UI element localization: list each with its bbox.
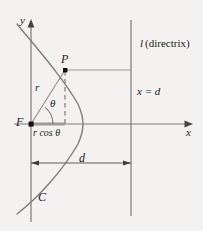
x-axis-label: x (186, 127, 191, 138)
theta-label: θ (50, 98, 55, 109)
directrix-equation-label: x = d (137, 86, 160, 97)
curve-c-label: C (38, 191, 46, 203)
figure-canvas (0, 0, 203, 231)
r-cos-theta-label: r cos θ (33, 128, 60, 138)
focus-point-dot (29, 122, 34, 127)
theta-arc (45, 108, 53, 125)
point-p-label: P (61, 53, 68, 65)
conic-focus-directrix-figure: y x F P C r θ r cos θ d l(directrix) x =… (0, 0, 203, 231)
directrix-name-italic: l (140, 37, 143, 49)
distance-d-right-arrowhead (123, 160, 131, 165)
directrix-name-paren: (directrix) (145, 37, 190, 49)
focus-label: F (16, 116, 23, 128)
focal-radius-segment (31, 70, 65, 124)
radius-r-label: r (35, 82, 39, 93)
p-point-dot (63, 68, 67, 72)
y-axis-label: y (20, 15, 25, 26)
distance-d-left-arrowhead (31, 160, 39, 165)
directrix-name-label: l(directrix) (140, 38, 190, 49)
y-axis-arrowhead (28, 19, 35, 28)
theta-arc-tick (45, 108, 48, 111)
conic-curve (17, 24, 83, 214)
distance-d-label: d (79, 152, 85, 164)
